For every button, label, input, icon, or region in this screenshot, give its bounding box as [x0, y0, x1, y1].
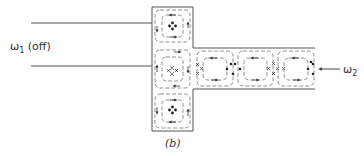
vertical-cell-middle — [155, 50, 190, 88]
omega1-label: ω1 (off) — [10, 40, 51, 55]
horizontal-cell-2 — [238, 51, 273, 86]
four-dot-marker-bottom — [168, 106, 177, 115]
omega1-note: (off) — [24, 40, 50, 53]
vertical-cell-bottom — [155, 94, 190, 128]
omega2-symbol: ω — [343, 63, 352, 76]
diagram-canvas — [0, 0, 364, 156]
omega1-symbol: ω — [10, 40, 19, 53]
four-cross-marker-middle — [167, 66, 178, 76]
panel-label: (b) — [165, 137, 181, 150]
boundary-dot-markers — [226, 61, 315, 76]
horizontal-waveguide — [193, 48, 315, 89]
omega2-label: ω2 — [343, 63, 357, 78]
omega2-subscript: 2 — [352, 69, 357, 78]
four-dot-marker-top — [168, 22, 177, 31]
